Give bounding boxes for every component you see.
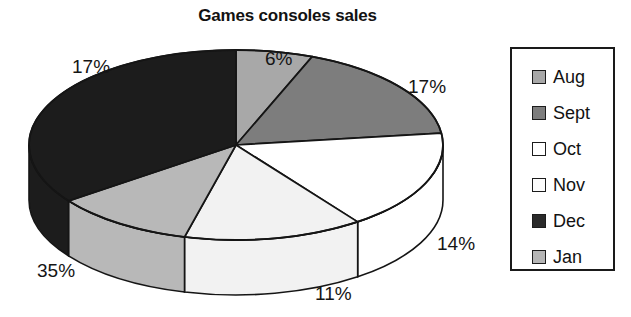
pie-label-upper-right: 17%	[408, 76, 446, 98]
legend-label-nov: Nov	[553, 176, 585, 194]
legend-list: Aug Sept Oct Nov Dec Jan	[532, 59, 616, 275]
legend-item-sept[interactable]: Sept	[532, 95, 616, 131]
legend-item-dec[interactable]: Dec	[532, 203, 616, 239]
legend: Aug Sept Oct Nov Dec Jan	[510, 47, 615, 271]
pie-label-top: 6%	[265, 48, 292, 70]
legend-item-jan[interactable]: Jan	[532, 239, 616, 275]
legend-label-sept: Sept	[553, 104, 590, 122]
pie-label-right: 14%	[437, 233, 475, 255]
legend-swatch-icon-nov	[532, 178, 546, 192]
legend-label-dec: Dec	[553, 212, 585, 230]
legend-swatch-icon-sept	[532, 106, 546, 120]
legend-item-oct[interactable]: Oct	[532, 131, 616, 167]
pie-label-lower-left: 35%	[37, 260, 75, 282]
legend-label-oct: Oct	[553, 140, 581, 158]
pie-chart-figure: Games consoles sales 6% 17% 14% 11%	[0, 0, 631, 317]
legend-swatch-icon-oct	[532, 142, 546, 156]
legend-swatch-icon-jan	[532, 250, 546, 264]
legend-label-aug: Aug	[553, 68, 585, 86]
legend-label-jan: Jan	[553, 248, 582, 266]
legend-item-nov[interactable]: Nov	[532, 167, 616, 203]
legend-item-aug[interactable]: Aug	[532, 59, 616, 95]
legend-swatch-icon-dec	[532, 214, 546, 228]
pie-label-bottom: 11%	[315, 283, 352, 305]
legend-swatch-icon-aug	[532, 70, 546, 84]
pie-label-upper-left: 17%	[72, 56, 110, 78]
